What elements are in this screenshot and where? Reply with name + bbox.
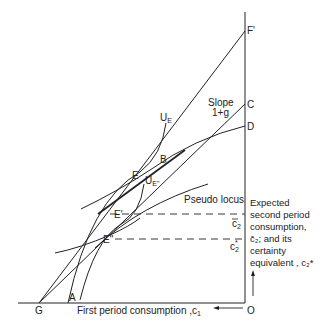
annotation-line6: equivalent , c₂* — [250, 257, 314, 268]
label-a: A — [69, 292, 76, 303]
label-g: G — [35, 305, 43, 316]
label-ue-star: UE" — [145, 175, 160, 187]
annotation-line4: c̄₂; and its — [250, 233, 292, 244]
annotation-line1: Expected — [250, 197, 290, 208]
label-e-double-prime: E" — [103, 234, 114, 245]
left-arrow-icon — [213, 306, 219, 310]
annotation-line2: second period — [250, 209, 310, 220]
label-c: C — [247, 99, 254, 110]
tick-c2-star: c2* — [230, 239, 239, 253]
label-d: D — [247, 121, 254, 132]
annotation-line5: certainty — [250, 245, 286, 256]
label-f: F' — [247, 25, 255, 36]
up-arrow-icon — [251, 270, 255, 276]
lower-indifference-curve — [55, 218, 140, 253]
label-b: B — [160, 154, 167, 165]
label-o: O — [247, 305, 255, 316]
label-e: E — [132, 170, 139, 181]
annotation-line3: consumption, — [250, 221, 307, 232]
label-e-prime: E' — [114, 209, 123, 220]
line-g-f — [39, 31, 245, 303]
consumption-diagram: F' C D G A O B E E' E" UE UE" Pseudo loc… — [0, 0, 330, 331]
x-axis-label: First period consumption ,c1 — [77, 305, 201, 317]
slope-label-line2: 1+g — [212, 107, 229, 118]
label-pseudo-locus: Pseudo locus — [184, 194, 244, 205]
tick-c2-bar: c2 — [232, 218, 241, 230]
label-ue: UE — [160, 112, 172, 124]
